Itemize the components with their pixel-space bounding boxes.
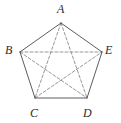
edge-ea [61, 23, 102, 52]
vertex-label-d: D [83, 107, 92, 119]
pentagon-figure: A B C D E [0, 0, 121, 123]
diagonal-bd [20, 52, 87, 98]
edge-de [87, 52, 102, 98]
edge-ab [20, 23, 61, 52]
pentagon-diagonals-group [20, 23, 102, 98]
vertex-label-e: E [105, 44, 112, 56]
diagonal-ce [35, 52, 102, 98]
vertex-label-a: A [57, 3, 64, 15]
diagonal-ad [61, 23, 87, 98]
vertex-label-c: C [30, 107, 38, 119]
edge-bc [20, 52, 35, 98]
diagonal-ac [35, 23, 61, 98]
pentagon-geometry-svg [0, 0, 121, 123]
vertex-label-b: B [5, 44, 12, 56]
